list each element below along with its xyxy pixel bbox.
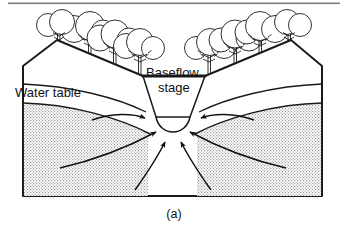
baseflow-label-line1: Baseflow <box>146 65 199 80</box>
water-table-label: Water table <box>15 85 81 100</box>
baseflow-label-line2: stage <box>158 80 190 95</box>
figure-caption: (a) <box>166 207 181 221</box>
block-diagram-svg: Water table Baseflow stage (a) <box>0 0 348 233</box>
top-rule <box>8 3 340 5</box>
figure-container: Water table Baseflow stage (a) <box>0 0 348 233</box>
